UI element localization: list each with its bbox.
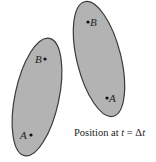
point-a-initial-label: A: [19, 129, 27, 141]
point-a-later-label: A: [108, 92, 116, 104]
point-a-initial-dot: [29, 133, 32, 136]
point-b-initial-dot: [43, 57, 46, 60]
position-caption: Position at t = Δt: [74, 127, 146, 138]
point-b-initial-label: B: [35, 53, 42, 65]
rigid-body-diagram: B A B A Position at t = Δt: [0, 0, 156, 162]
point-b-later-label: B: [90, 16, 97, 28]
later-position-body: [63, 0, 134, 122]
